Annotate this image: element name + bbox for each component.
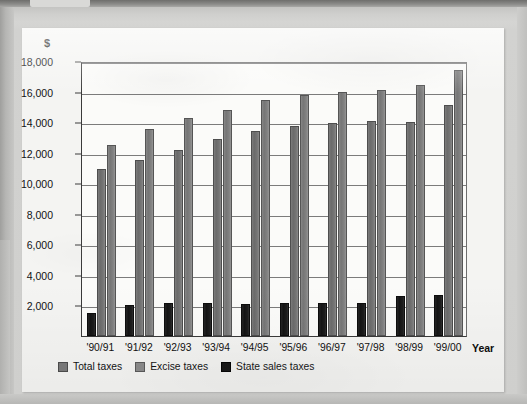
y-axis-unit-label: $ bbox=[44, 37, 50, 49]
bar-state[interactable] bbox=[280, 303, 289, 336]
x-axis-tick-label: '92/93 bbox=[164, 342, 192, 353]
bar-excise[interactable] bbox=[184, 118, 193, 336]
bar-chart: $ 18,00016,00014,00012,00010,0008,0006,0… bbox=[22, 28, 504, 392]
bar-group bbox=[159, 63, 198, 336]
legend-item[interactable]: Total taxes bbox=[58, 361, 122, 372]
page-bottom-edge bbox=[0, 394, 527, 404]
y-axis-tick-label: 10,000 bbox=[21, 178, 53, 190]
bar-state[interactable] bbox=[87, 313, 96, 336]
x-axis-tick-label: '97/98 bbox=[357, 342, 385, 353]
x-axis-tick-label: '99/00 bbox=[434, 342, 462, 353]
y-axis-tick-label: 14,000 bbox=[21, 117, 53, 129]
y-axis-tick-label: 8,000 bbox=[27, 209, 53, 221]
legend-swatch-state bbox=[221, 362, 231, 372]
legend-swatch-total bbox=[58, 362, 68, 372]
bar-total[interactable] bbox=[213, 139, 222, 336]
legend-item[interactable]: Excise taxes bbox=[135, 361, 208, 372]
bar-group bbox=[275, 63, 314, 336]
x-axis-tick-label: '91/92 bbox=[125, 342, 153, 353]
bar-group bbox=[198, 63, 237, 336]
legend-swatch-excise bbox=[135, 362, 145, 372]
bar-excise[interactable] bbox=[300, 95, 309, 336]
bar-excise[interactable] bbox=[338, 92, 347, 336]
page-right-edge bbox=[517, 7, 527, 404]
bar-state[interactable] bbox=[241, 304, 250, 336]
chart-legend: Total taxesExcise taxesState sales taxes bbox=[58, 361, 314, 372]
bar-state[interactable] bbox=[318, 303, 327, 336]
bar-excise[interactable] bbox=[454, 70, 463, 336]
x-axis-tick-label: '94/95 bbox=[241, 342, 269, 353]
x-axis-tick-label: '90/91 bbox=[86, 342, 114, 353]
page-left-edge-lower bbox=[0, 240, 10, 404]
bar-group bbox=[82, 63, 121, 336]
y-axis-tick-label: 12,000 bbox=[21, 148, 53, 160]
plot-area bbox=[81, 62, 467, 337]
legend-label: Excise taxes bbox=[150, 361, 208, 372]
bar-group bbox=[236, 63, 275, 336]
bar-state[interactable] bbox=[396, 296, 405, 336]
bar-excise[interactable] bbox=[377, 90, 386, 336]
bar-state[interactable] bbox=[164, 303, 173, 336]
bar-state[interactable] bbox=[125, 305, 134, 336]
bar-total[interactable] bbox=[406, 122, 415, 336]
bar-total[interactable] bbox=[135, 160, 144, 336]
bar-state[interactable] bbox=[357, 303, 366, 336]
bar-total[interactable] bbox=[328, 123, 337, 336]
legend-label: State sales taxes bbox=[236, 361, 314, 372]
bar-total[interactable] bbox=[444, 105, 453, 336]
bar-group bbox=[121, 63, 160, 336]
bar-group bbox=[391, 63, 430, 336]
bar-total[interactable] bbox=[290, 126, 299, 336]
legend-label: Total taxes bbox=[73, 361, 122, 372]
x-axis-title: Year bbox=[472, 342, 494, 354]
bar-group bbox=[429, 63, 468, 336]
bar-state[interactable] bbox=[203, 303, 212, 336]
y-axis-tick-label: 4,000 bbox=[27, 270, 53, 282]
bar-total[interactable] bbox=[97, 169, 106, 336]
bar-total[interactable] bbox=[251, 131, 260, 336]
y-axis-tick-label: 6,000 bbox=[27, 239, 53, 251]
legend-item[interactable]: State sales taxes bbox=[221, 361, 314, 372]
x-axis-tick-label: '93/94 bbox=[202, 342, 230, 353]
bar-excise[interactable] bbox=[145, 129, 154, 336]
page-top-edge bbox=[0, 0, 527, 7]
bar-excise[interactable] bbox=[416, 85, 425, 336]
bar-group bbox=[314, 63, 353, 336]
x-axis-tick-label: '96/97 bbox=[318, 342, 346, 353]
bar-total[interactable] bbox=[174, 150, 183, 336]
y-axis-tick-label: 18,000 bbox=[21, 56, 53, 68]
bar-state[interactable] bbox=[434, 295, 443, 336]
x-axis-tick-label: '98/99 bbox=[395, 342, 423, 353]
bar-excise[interactable] bbox=[107, 145, 116, 336]
figure-card: $ 18,00016,00014,00012,00010,0008,0006,0… bbox=[22, 28, 504, 392]
bar-excise[interactable] bbox=[261, 100, 270, 336]
page-top-notch bbox=[30, 0, 90, 7]
x-axis-tick-label: '95/96 bbox=[279, 342, 307, 353]
bar-excise[interactable] bbox=[223, 110, 232, 336]
y-axis-tick-label: 16,000 bbox=[21, 87, 53, 99]
y-axis-tick-label: 2,000 bbox=[27, 300, 53, 312]
bar-total[interactable] bbox=[367, 121, 376, 336]
bar-group bbox=[352, 63, 391, 336]
